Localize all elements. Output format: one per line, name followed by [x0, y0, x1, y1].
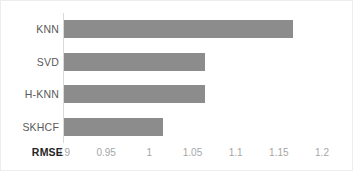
bar-row [63, 78, 322, 111]
category-axis-labels: KNN SVD H-KNN SKHCF [1, 13, 59, 143]
bar-svd [64, 53, 205, 71]
x-tick-label: 1.15 [269, 147, 288, 159]
bar-chart: KNN SVD H-KNN SKHCF 0.90.9511.051.11.151… [0, 0, 353, 171]
x-axis-tick-labels: 0.90.9511.051.11.151.2 [63, 147, 322, 163]
category-label-svd: SVD [3, 56, 59, 68]
category-label-knn: KNN [3, 23, 59, 35]
bar-knn [64, 20, 293, 38]
x-tick-label: 0.95 [96, 147, 115, 159]
plot-area [63, 13, 322, 143]
category-label-skhcf: SKHCF [3, 121, 59, 133]
bar-h-knn [64, 85, 205, 103]
x-axis-title: RMSE [7, 146, 63, 159]
x-tick-label: 1.05 [183, 147, 202, 159]
bar-row [63, 46, 322, 79]
x-tick-label: 1 [147, 147, 153, 159]
bar-skhcf [64, 118, 163, 136]
x-tick-label: 1.2 [315, 147, 329, 159]
x-tick-label: 1.1 [229, 147, 243, 159]
category-label-h-knn: H-KNN [3, 88, 59, 100]
bar-row [63, 111, 322, 144]
bar-row [63, 13, 322, 46]
